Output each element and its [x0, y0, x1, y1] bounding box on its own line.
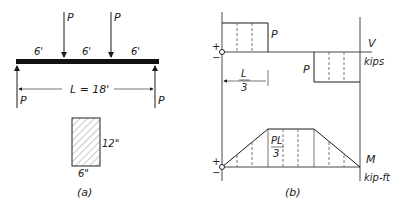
dim-num: L	[241, 68, 247, 79]
load-label-2: P	[114, 11, 121, 24]
length-label: L = 18'	[70, 83, 109, 96]
shear-left-value: P	[271, 28, 278, 41]
caption-a: (a)	[77, 186, 92, 199]
beam-figure: P P 6' 6' 6' P P L = 18'	[16, 11, 165, 108]
moment-axis-label: M	[366, 153, 376, 166]
span-label-3: 6'	[131, 46, 140, 57]
moment-minus: −	[212, 167, 220, 178]
beam-diagram: P P 6' 6' 6' P P L = 18' 12" 6" (a)	[0, 0, 406, 209]
shear-axis-label: V	[368, 37, 377, 50]
moment-peak-den: 3	[273, 148, 279, 159]
load-label-1: P	[67, 11, 74, 24]
shear-positive-block	[222, 23, 268, 52]
span-label-2: 6'	[82, 46, 91, 57]
shear-units: kips	[364, 56, 384, 67]
moment-curve	[222, 129, 360, 167]
shear-minus: −	[212, 52, 220, 63]
shear-negative-block	[314, 52, 360, 82]
shear-right-value: P	[303, 63, 310, 76]
cross-section: 12" 6"	[72, 118, 119, 179]
reaction-label-right: P	[158, 94, 165, 107]
dim-den: 3	[241, 82, 247, 93]
moment-plus: +	[212, 156, 220, 167]
reaction-label-left: P	[20, 94, 27, 107]
moment-units: kip-ft	[364, 172, 391, 183]
caption-b: (b)	[285, 186, 301, 199]
beam	[16, 59, 159, 64]
shear-plus: +	[212, 41, 220, 52]
section-width-label: 6"	[78, 168, 89, 179]
section-rect	[72, 118, 100, 166]
moment-peak-num: PL	[271, 135, 283, 146]
section-height-label: 12"	[102, 138, 119, 149]
moment-diagram: + − PL 3 M kip-ft	[212, 129, 391, 183]
span-label-1: 6'	[34, 46, 43, 57]
